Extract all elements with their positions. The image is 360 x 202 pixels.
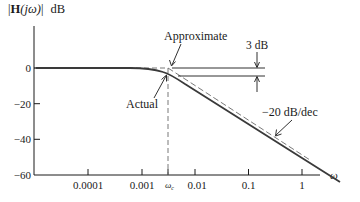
actual-arrow: [154, 75, 167, 98]
y-tick-label: −20: [14, 98, 32, 110]
omega-c-label: ωc: [165, 180, 174, 191]
slope-label: −20 dB/dec: [262, 105, 318, 119]
three-db-label: 3 dB: [246, 39, 268, 51]
x-tick-label: 0.0001: [73, 179, 103, 191]
y-tick-label: 0: [26, 62, 32, 74]
y-axis-title: |H(jω)|dB: [8, 2, 65, 16]
actual-label: Actual: [126, 97, 159, 111]
approximate-label: Approximate: [164, 29, 227, 43]
x-tick-label: 0.1: [242, 179, 256, 191]
x-tick-label: 1: [299, 179, 305, 191]
x-tick-label: 0.001: [130, 179, 155, 191]
three-db-reference: [172, 52, 265, 92]
y-ticks: 0 −20 −40 −60: [14, 62, 40, 181]
y-tick-label: −40: [14, 133, 32, 145]
approximate-arrow: [170, 44, 182, 66]
y-tick-label: −60: [14, 169, 32, 181]
actual-series: [36, 68, 340, 182]
x-ticks: 0.0001 0.001 0.01 0.1 1: [73, 169, 305, 191]
x-tick-label: 0.01: [187, 179, 206, 191]
slope-arrow: [276, 120, 293, 136]
bode-magnitude-chart: |H(jω)|dB 0 −20 −40 −60 0.0001 0.001 0.0…: [0, 0, 360, 202]
